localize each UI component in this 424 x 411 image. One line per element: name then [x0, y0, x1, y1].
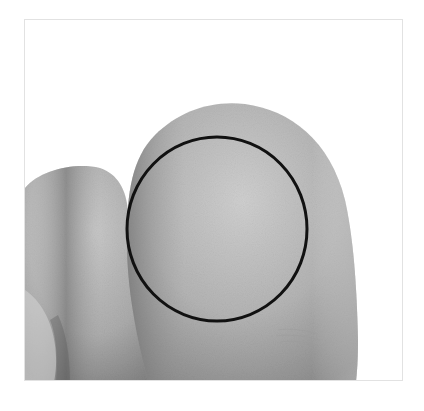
right-fingertip [127, 103, 358, 382]
fingertip-photo [0, 0, 424, 411]
